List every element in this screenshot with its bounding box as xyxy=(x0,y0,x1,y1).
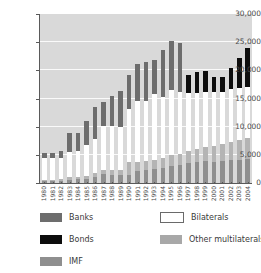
x-axis-tick-label: 1997 xyxy=(185,186,191,201)
x-axis-tick-label: 2003 xyxy=(236,186,242,201)
y-axis-tick-label: 5,000 xyxy=(224,151,261,158)
bar-segment-bilaterals xyxy=(42,158,47,180)
bar-segment-bonds xyxy=(220,77,225,92)
bar-segment-bilaterals xyxy=(93,139,98,173)
bar-column xyxy=(50,153,55,183)
bar-segment-bilaterals xyxy=(127,109,132,162)
legend-item-bilaterals[interactable]: Bilaterals xyxy=(160,212,228,223)
bar-segment-bilaterals xyxy=(144,101,149,161)
bar-column xyxy=(169,41,174,184)
bar-segment-banks xyxy=(152,60,157,94)
x-axis-tick-label: 1990 xyxy=(126,186,132,201)
x-axis-tick-label: 2002 xyxy=(228,186,234,201)
legend-item-bonds[interactable]: Bonds xyxy=(40,234,94,245)
x-axis-tick xyxy=(87,182,88,184)
legend-label: Bonds xyxy=(69,235,94,244)
x-axis-tick xyxy=(248,182,249,184)
x-axis-tick-label: 1991 xyxy=(135,186,141,201)
y-axis-tick xyxy=(36,183,39,184)
bar-segment-imf xyxy=(212,162,217,183)
bar-segment-bilaterals xyxy=(161,97,166,158)
bar-segment-bilaterals xyxy=(212,92,217,146)
bar-column xyxy=(178,43,183,183)
bar-segment-bilaterals xyxy=(203,92,208,147)
x-axis-tick-label: 1995 xyxy=(168,186,174,201)
x-axis-tick-label: 1988 xyxy=(109,186,115,201)
bar-segment-other-multilaterals xyxy=(169,155,174,166)
x-axis-tick xyxy=(222,182,223,184)
x-axis-tick-label: 1983 xyxy=(67,186,73,201)
y-axis-tick-label: 15,000 xyxy=(224,95,261,102)
y-axis-tick xyxy=(36,99,39,100)
bar-column xyxy=(59,151,64,183)
bar-segment-banks xyxy=(135,64,140,101)
x-axis-labels: 1980198119821983198419851986198719881989… xyxy=(40,184,252,210)
x-axis-tick-label: 1984 xyxy=(75,186,81,201)
legend-swatch xyxy=(160,212,184,223)
x-axis-tick-label: 1986 xyxy=(92,186,98,201)
x-axis-tick xyxy=(121,182,122,184)
y-axis-tick xyxy=(36,42,39,43)
x-axis-tick-label: 2000 xyxy=(211,186,217,201)
bar-segment-bilaterals xyxy=(59,158,64,180)
x-axis-tick-label: 1980 xyxy=(41,186,47,201)
legend-item-imf[interactable]: IMF xyxy=(40,256,83,267)
bar-segment-bilaterals xyxy=(186,93,191,150)
bar-segment-bonds xyxy=(203,71,208,91)
y-axis-tick xyxy=(36,127,39,128)
bar-column xyxy=(127,75,132,183)
bar-segment-other-multilaterals xyxy=(195,149,200,162)
bar-column xyxy=(76,133,81,183)
x-axis-tick-label: 1982 xyxy=(58,186,64,201)
x-axis-tick xyxy=(44,182,45,184)
legend-item-banks[interactable]: Banks xyxy=(40,212,93,223)
bar-segment-imf xyxy=(152,169,157,183)
bar-segment-bilaterals xyxy=(195,93,200,149)
bar-segment-banks xyxy=(110,96,115,126)
bar-segment-imf xyxy=(178,165,183,183)
x-axis-tick xyxy=(171,182,172,184)
bar-column xyxy=(186,75,191,183)
bar-segment-imf xyxy=(203,161,208,183)
x-axis-tick xyxy=(239,182,240,184)
plot-area xyxy=(40,14,252,183)
bar-segment-banks xyxy=(101,102,106,126)
bar-column xyxy=(42,153,47,183)
bar-segment-other-multilaterals xyxy=(203,147,208,161)
x-axis-tick xyxy=(205,182,206,184)
y-axis-line xyxy=(39,14,40,184)
x-axis-tick-label: 1985 xyxy=(84,186,90,201)
bar-segment-imf xyxy=(186,163,191,183)
y-axis-tick xyxy=(36,70,39,71)
bar-segment-banks xyxy=(76,133,81,151)
legend-swatch xyxy=(40,257,62,266)
bar-segment-bilaterals xyxy=(101,126,106,169)
legend-item-other-multilaterals[interactable]: Other multilaterals xyxy=(160,234,261,245)
chart-legend: BanksBondsIMFBilateralsOther multilatera… xyxy=(0,210,261,273)
bar-segment-banks xyxy=(144,62,149,100)
x-axis-tick xyxy=(146,182,147,184)
legend-label: IMF xyxy=(69,257,83,266)
bar-segment-bilaterals xyxy=(169,90,174,154)
bar-segment-other-multilaterals xyxy=(127,162,132,175)
bar-column xyxy=(161,50,166,183)
x-axis-tick xyxy=(78,182,79,184)
x-axis-tick xyxy=(129,182,130,184)
bar-column xyxy=(203,71,208,183)
bar-column xyxy=(67,133,72,183)
bar-column xyxy=(212,77,217,183)
bar-column xyxy=(152,60,157,183)
bar-segment-imf xyxy=(195,162,200,183)
y-axis-tick-label: 25,000 xyxy=(224,38,261,45)
bar-segment-bilaterals xyxy=(84,145,89,176)
bar-segment-banks xyxy=(93,107,98,139)
bar-segment-banks xyxy=(169,41,174,91)
x-axis-tick xyxy=(138,182,139,184)
x-axis-tick-label: 1992 xyxy=(143,186,149,201)
x-axis-tick-label: 1989 xyxy=(118,186,124,201)
bar-segment-imf xyxy=(169,166,174,183)
bar-segment-other-multilaterals xyxy=(161,158,166,168)
x-axis-tick xyxy=(112,182,113,184)
x-axis-tick-label: 1994 xyxy=(160,186,166,201)
bar-column xyxy=(237,58,242,183)
